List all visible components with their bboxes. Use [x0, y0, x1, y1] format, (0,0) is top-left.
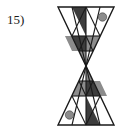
dot-bottom-left-icon [65, 111, 73, 119]
top-triangle-group [58, 7, 114, 66]
dot-top-right-icon [98, 13, 106, 21]
question-number-label: 15) [7, 12, 24, 28]
geometric-figure [55, 4, 117, 128]
bottom-triangle-group [58, 66, 114, 125]
page-canvas: 15) [0, 0, 125, 132]
